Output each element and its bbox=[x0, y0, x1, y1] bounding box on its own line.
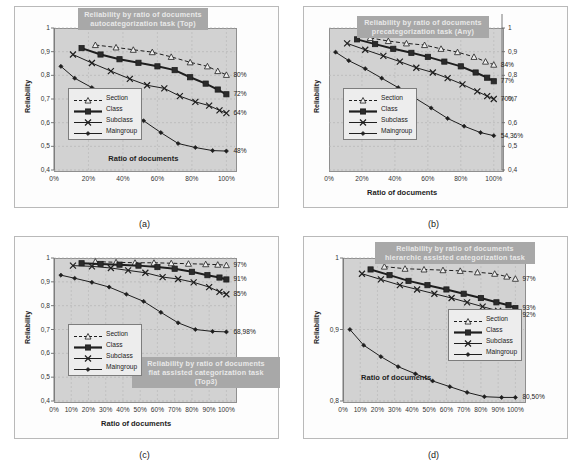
x-tick-label: 100% bbox=[212, 175, 240, 182]
legend-item-maingroup[interactable]: Maingroup bbox=[348, 125, 412, 136]
y-tick-label: 1 bbox=[28, 254, 50, 261]
x-tick-label: 0% bbox=[40, 175, 68, 182]
legend-item-subclass[interactable]: Subclass bbox=[73, 114, 137, 125]
x-axis-title: Ratio of documents bbox=[367, 188, 437, 197]
legend-marker-subclass-icon bbox=[73, 350, 103, 361]
x-tick-label: 60% bbox=[143, 175, 171, 182]
y-tick-label: 0,5 bbox=[28, 373, 50, 380]
y-tick-label: 1 bbox=[317, 254, 339, 261]
x-tick-label: 40% bbox=[381, 175, 409, 182]
y-axis-title: Reliability bbox=[24, 74, 31, 120]
series-section bbox=[367, 35, 497, 67]
series-end-label-section: 97% bbox=[522, 275, 535, 282]
y-tick-label: 0,9 bbox=[28, 278, 50, 285]
legend-label: Subclass bbox=[106, 116, 133, 123]
series-end-label-class: 93% bbox=[522, 304, 535, 311]
legend-marker-section-icon bbox=[348, 92, 378, 103]
legend-item-section[interactable]: Section bbox=[73, 92, 137, 103]
figure-grid: 80%72%64%48%0,40,50,60,70,80,910%20%40%6… bbox=[0, 0, 578, 461]
y-axis-title: Reliability bbox=[24, 304, 31, 350]
legend-marker-section-icon bbox=[453, 313, 483, 324]
legend-marker-maingroup-icon bbox=[453, 346, 483, 357]
legend-item-subclass[interactable]: Subclass bbox=[453, 335, 517, 346]
y-tick-label: 0,7 bbox=[28, 95, 50, 102]
panel-caption: (d) bbox=[289, 450, 578, 460]
series-end-label-maingroup: 80,50% bbox=[522, 393, 544, 400]
panel-inner: 97%93%92%80,50%0,80,910%10%20%30%40%50%6… bbox=[303, 236, 568, 439]
panel-caption: (a) bbox=[0, 219, 289, 229]
x-tick-label: 100% bbox=[480, 175, 508, 182]
y-tick-label: 0,6 bbox=[28, 119, 50, 126]
legend-item-class[interactable]: Class bbox=[73, 339, 137, 350]
x-axis-title: Ratio of documents bbox=[101, 419, 171, 428]
y-tick-label: 0,4 bbox=[28, 397, 50, 404]
legend-label: Subclass bbox=[486, 337, 513, 344]
legend-item-class[interactable]: Class bbox=[453, 324, 517, 335]
legend-label: Maingroup bbox=[106, 363, 137, 370]
x-tick-label: 100% bbox=[501, 406, 529, 413]
legend-item-section[interactable]: Section bbox=[348, 92, 412, 103]
x-tick-label: 60% bbox=[414, 175, 442, 182]
y-tick-label: 0,7 bbox=[508, 95, 517, 102]
legend-item-maingroup[interactable]: Maingroup bbox=[73, 125, 137, 136]
legend-marker-maingroup-icon bbox=[73, 125, 103, 136]
y-tick-label: 0,9 bbox=[317, 326, 339, 333]
legend-item-maingroup[interactable]: Maingroup bbox=[73, 361, 137, 372]
y-tick-label: 0,9 bbox=[28, 48, 50, 55]
panel-inner: 80%72%64%48%0,40,50,60,70,80,910%20%40%6… bbox=[14, 6, 279, 208]
series-end-label-maingroup: 68,98% bbox=[233, 328, 255, 335]
panel-inner: 84%77%70%54,36%0,40,50,60,70,80,910%20%4… bbox=[303, 6, 568, 208]
chart-panel-b: 84%77%70%54,36%0,40,50,60,70,80,910%20%4… bbox=[289, 0, 578, 230]
chart-title: Reliability by ratio of documents flat a… bbox=[132, 357, 280, 388]
series-subclass bbox=[70, 263, 229, 298]
chart-legend: SectionClassSubclassMaingroup bbox=[68, 88, 142, 140]
legend-item-section[interactable]: Section bbox=[73, 328, 137, 339]
legend-label: Class bbox=[486, 326, 503, 333]
y-tick-label: 0,5 bbox=[508, 142, 517, 149]
legend-marker-subclass-icon bbox=[73, 114, 103, 125]
chart-legend: SectionClassSubclassMaingroup bbox=[343, 88, 417, 140]
y-tick-label: 0,6 bbox=[508, 119, 517, 126]
y-tick-label: 0,5 bbox=[28, 142, 50, 149]
legend-item-class[interactable]: Class bbox=[73, 103, 137, 114]
legend-label: Class bbox=[381, 105, 398, 112]
x-tick-label: 80% bbox=[178, 175, 206, 182]
y-tick-label: 0,8 bbox=[28, 302, 50, 309]
y-tick-label: 0,8 bbox=[28, 71, 50, 78]
series-end-label-class: 91% bbox=[233, 275, 246, 282]
panel-caption: (b) bbox=[289, 219, 578, 229]
legend-marker-maingroup-icon bbox=[73, 361, 103, 372]
series-end-label-maingroup: 54,36% bbox=[501, 132, 523, 139]
legend-item-section[interactable]: Section bbox=[453, 313, 517, 324]
chart-title: Reliability by ratio of documents hierar… bbox=[375, 242, 535, 264]
legend-marker-class-icon bbox=[73, 339, 103, 350]
legend-label: Maingroup bbox=[381, 127, 412, 134]
legend-item-subclass[interactable]: Subclass bbox=[348, 114, 412, 125]
legend-label: Class bbox=[106, 105, 123, 112]
y-axis-title: Reliability bbox=[313, 304, 320, 350]
series-end-label-subclass: 85% bbox=[233, 290, 246, 297]
y-tick-label: 0,9 bbox=[508, 48, 517, 55]
legend-item-subclass[interactable]: Subclass bbox=[73, 350, 137, 361]
panel-inner: 97%91%85%68,98%0,40,50,60,70,80,910%10%2… bbox=[14, 236, 279, 439]
chart-panel-d: 97%93%92%80,50%0,80,910%10%20%30%40%50%6… bbox=[289, 230, 578, 461]
legend-label: Class bbox=[106, 341, 123, 348]
legend-marker-section-icon bbox=[73, 328, 103, 339]
chart-panel-c: 97%91%85%68,98%0,40,50,60,70,80,910%10%2… bbox=[0, 230, 289, 461]
y-tick-label: 1 bbox=[28, 24, 50, 31]
legend-label: Subclass bbox=[381, 116, 408, 123]
y-tick-label: 0,6 bbox=[28, 349, 50, 356]
legend-item-maingroup[interactable]: Maingroup bbox=[453, 346, 517, 357]
x-tick-label: 100% bbox=[212, 406, 240, 413]
chart-title: Reliability by ratio of documents precat… bbox=[357, 16, 489, 38]
y-axis-title: Reliability bbox=[313, 74, 320, 120]
y-tick-label: 0,8 bbox=[508, 71, 517, 78]
y-tick-label: 0,4 bbox=[28, 166, 50, 173]
legend-item-class[interactable]: Class bbox=[348, 103, 412, 114]
legend-marker-maingroup-icon bbox=[348, 125, 378, 136]
legend-label: Subclass bbox=[106, 352, 133, 359]
series-end-label-section: 97% bbox=[233, 261, 246, 268]
legend-label: Section bbox=[106, 94, 128, 101]
chart-panel-a: 80%72%64%48%0,40,50,60,70,80,910%20%40%6… bbox=[0, 0, 289, 230]
legend-label: Section bbox=[106, 330, 128, 337]
